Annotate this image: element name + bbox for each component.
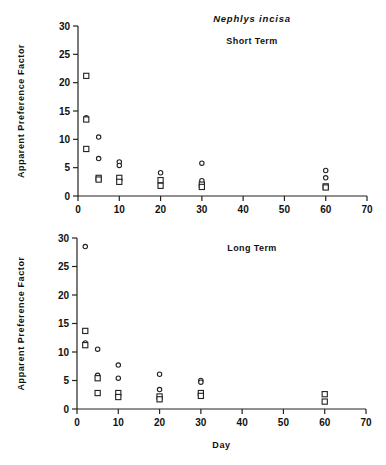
panel-title: Long Term xyxy=(227,243,276,253)
data-point-square xyxy=(116,394,121,399)
data-point-square xyxy=(323,185,328,190)
x-axis-title: Day xyxy=(212,440,230,450)
x-tick-label: 20 xyxy=(154,417,166,428)
data-point-square xyxy=(83,328,88,333)
y-tick-label: 25 xyxy=(58,261,70,272)
x-tick-label: 60 xyxy=(320,204,332,215)
data-point-circle xyxy=(324,176,328,180)
x-tick-label: 70 xyxy=(361,204,373,215)
x-tick-label: 40 xyxy=(237,417,249,428)
x-tick-label: 0 xyxy=(74,417,80,428)
data-point-square xyxy=(96,177,101,182)
y-tick-label: 30 xyxy=(58,233,70,244)
long-term-panel: 051015202530010203040506070Apparent Pref… xyxy=(16,233,372,451)
data-point-circle xyxy=(200,161,204,165)
figure: 051015202530010203040506070Apparent Pref… xyxy=(0,0,386,465)
data-point-square xyxy=(157,397,162,402)
data-point-circle xyxy=(83,244,87,248)
data-point-circle xyxy=(157,387,161,391)
y-tick-label: 20 xyxy=(59,77,71,88)
chart-title: Nephlys incisa xyxy=(213,13,291,24)
data-point-square xyxy=(84,146,89,151)
data-point-circle xyxy=(117,163,121,167)
y-tick-label: 5 xyxy=(63,375,69,386)
data-point-circle xyxy=(116,363,120,367)
y-tick-label: 10 xyxy=(59,134,71,145)
y-tick-label: 20 xyxy=(58,290,70,301)
data-point-circle xyxy=(96,156,100,160)
panel-title: Short Term xyxy=(226,36,277,46)
y-tick-label: 30 xyxy=(59,21,71,32)
x-tick-label: 50 xyxy=(278,417,290,428)
x-tick-label: 40 xyxy=(238,204,250,215)
data-point-square xyxy=(158,178,163,183)
y-tick-label: 5 xyxy=(64,162,70,173)
x-tick-label: 30 xyxy=(195,417,207,428)
x-tick-label: 10 xyxy=(114,204,126,215)
x-tick-label: 60 xyxy=(319,417,331,428)
y-tick-label: 10 xyxy=(58,347,70,358)
data-point-square xyxy=(322,399,327,404)
data-point-circle xyxy=(95,347,99,351)
data-point-square xyxy=(198,393,203,398)
data-point-square xyxy=(95,390,100,395)
data-point-circle xyxy=(157,372,161,376)
data-point-circle xyxy=(199,380,203,384)
y-tick-label: 25 xyxy=(59,49,71,60)
x-tick-label: 70 xyxy=(360,417,372,428)
data-point-square xyxy=(117,179,122,184)
data-point-square xyxy=(322,392,327,397)
x-tick-label: 0 xyxy=(75,204,81,215)
x-tick-label: 20 xyxy=(155,204,167,215)
data-point-square xyxy=(84,117,89,122)
data-point-circle xyxy=(116,376,120,380)
short-term-panel: 051015202530010203040506070Apparent Pref… xyxy=(16,13,373,215)
y-tick-label: 15 xyxy=(59,106,71,117)
data-point-square xyxy=(84,73,89,78)
x-tick-label: 30 xyxy=(196,204,208,215)
y-tick-label: 0 xyxy=(63,404,69,415)
data-point-circle xyxy=(96,135,100,139)
data-point-square xyxy=(158,183,163,188)
y-tick-label: 0 xyxy=(64,191,70,202)
data-point-square xyxy=(83,343,88,348)
data-point-circle xyxy=(324,168,328,172)
y-axis-title: Apparent Preference Factor xyxy=(16,44,26,178)
x-tick-label: 10 xyxy=(113,417,125,428)
data-point-square xyxy=(199,184,204,189)
y-axis-title: Apparent Preference Factor xyxy=(16,256,26,390)
x-tick-label: 50 xyxy=(279,204,291,215)
data-point-square xyxy=(95,376,100,381)
data-point-circle xyxy=(158,171,162,175)
y-tick-label: 15 xyxy=(58,318,70,329)
